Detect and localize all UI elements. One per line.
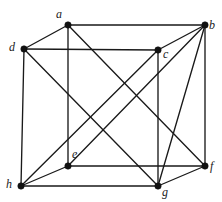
vertex-d[interactable] [21, 46, 27, 52]
edge-a-d [24, 25, 68, 49]
edge-f-g [158, 166, 205, 186]
edge-d-h [21, 49, 24, 186]
vertex-c[interactable] [155, 47, 161, 53]
edge-layer [21, 25, 205, 186]
vertex-label-c: c [163, 48, 168, 60]
vertex-label-g: g [162, 186, 168, 198]
vertex-layer [18, 22, 208, 189]
vertex-label-f: f [210, 160, 213, 172]
vertex-label-d: d [9, 41, 15, 53]
vertex-label-e: e [72, 148, 77, 160]
vertex-label-h: h [6, 178, 12, 190]
vertex-b[interactable] [202, 22, 208, 28]
vertex-h[interactable] [18, 183, 24, 189]
vertex-f[interactable] [202, 163, 208, 169]
graph-figure: abcdefgh [0, 0, 222, 202]
vertex-label-a: a [56, 8, 62, 20]
vertex-label-b: b [209, 19, 215, 31]
edge-c-d [24, 49, 158, 50]
vertex-a[interactable] [65, 22, 71, 28]
graph-canvas [0, 0, 222, 202]
vertex-e[interactable] [65, 163, 71, 169]
vertex-g[interactable] [155, 183, 161, 189]
edge-e-h [21, 166, 68, 186]
